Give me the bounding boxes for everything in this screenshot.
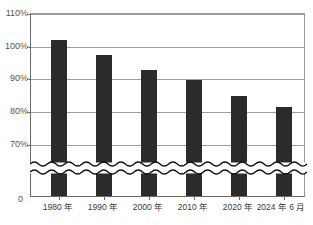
y-tick-label-90: 90% bbox=[10, 73, 28, 83]
x-tick-label-2024-06: 2024 年 6 月 bbox=[257, 200, 306, 212]
y-tick-mark-90 bbox=[27, 79, 31, 80]
gridline-80 bbox=[31, 112, 304, 113]
x-tick-label-1990: 1990 年 bbox=[88, 200, 118, 212]
x-axis-labels: 1980 年 1990 年 2000 年 2010 年 2020 年 2024 … bbox=[0, 200, 313, 222]
gridline-100 bbox=[31, 47, 304, 48]
x-tick-label-2000: 2000 年 bbox=[133, 200, 163, 212]
plot-area bbox=[30, 13, 305, 197]
bar-2020 bbox=[231, 96, 247, 196]
y-tick-label-70: 70% bbox=[10, 139, 28, 149]
gridline-70 bbox=[31, 145, 304, 146]
y-axis-labels: 110% 100% 90% 80% 70% bbox=[0, 0, 28, 225]
y-tick-label-80: 80% bbox=[10, 106, 28, 116]
bar-1980 bbox=[51, 40, 67, 196]
y-tick-mark-100 bbox=[27, 47, 31, 48]
bar-chart: 110% 100% 90% 80% 70% 0 bbox=[0, 0, 313, 225]
x-tick-label-2010: 2010 年 bbox=[178, 200, 208, 212]
x-tick-label-1980: 1980 年 bbox=[43, 200, 73, 212]
bar-2024-06 bbox=[276, 107, 292, 196]
gridline-110 bbox=[31, 14, 304, 15]
bar-1990 bbox=[96, 55, 112, 196]
y-tick-mark-70 bbox=[27, 145, 31, 146]
bar-2010 bbox=[186, 80, 202, 196]
y-tick-mark-110 bbox=[27, 14, 31, 15]
y-tick-label-110: 110% bbox=[6, 8, 28, 18]
gridline-90 bbox=[31, 79, 304, 80]
x-tick-label-2020: 2020 年 bbox=[223, 200, 253, 212]
y-tick-label-100: 100% bbox=[5, 41, 28, 51]
y-tick-mark-80 bbox=[27, 112, 31, 113]
bar-2000 bbox=[141, 70, 157, 196]
